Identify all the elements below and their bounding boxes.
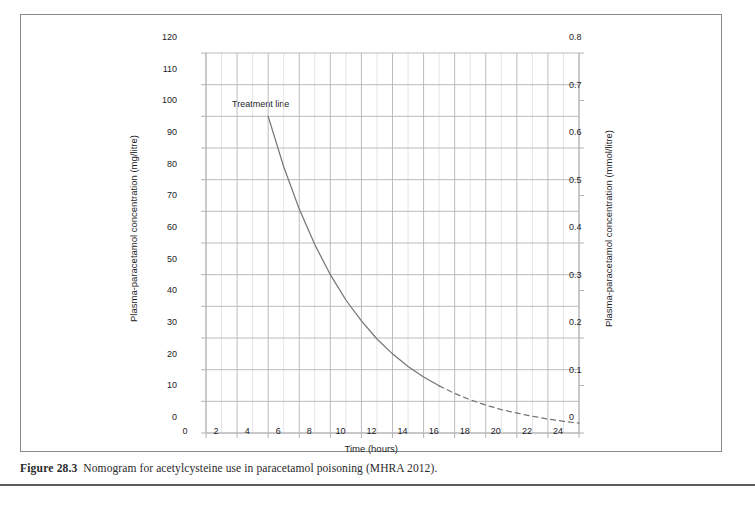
y-tick-label-left: 50: [143, 255, 177, 264]
y-axis-title-right: Plasma-paracetamol concentration (mmol/l…: [604, 130, 614, 327]
y-tick-label-right: 0.2: [569, 318, 582, 327]
y-tick-label-left: 30: [143, 318, 177, 327]
caption-number: Figure 28.3: [20, 462, 78, 474]
y-tick-label-right: 0.7: [569, 81, 582, 90]
y-tick-label-right: 0.5: [569, 176, 582, 185]
y-tick-label-left: 0: [143, 413, 177, 422]
figure-frame: Plasma-paracetamol concentration (mg/lit…: [20, 14, 722, 452]
x-tick-label: 6: [263, 427, 293, 436]
y-tick-label-right: 0.1: [569, 366, 582, 375]
plot-area: [206, 53, 579, 433]
y-tick-label-left: 90: [143, 128, 177, 137]
series-treatment-line: [268, 116, 439, 385]
caption-divider: [0, 484, 755, 486]
caption-text: Nomogram for acetylcysteine use in parac…: [83, 462, 437, 474]
x-tick-label: 2: [201, 427, 231, 436]
page-background: Plasma-paracetamol concentration (mg/lit…: [0, 0, 755, 511]
x-tick-label: 4: [232, 427, 262, 436]
nomogram-chart: [206, 53, 579, 433]
y-tick-label-right: 0.6: [569, 128, 582, 137]
y-tick-label-left: 120: [143, 33, 177, 42]
y-tick-label-left: 80: [143, 160, 177, 169]
x-tick-label: 18: [450, 427, 480, 436]
x-tick-label: 10: [325, 427, 355, 436]
x-tick-label: 22: [512, 427, 542, 436]
y-tick-label-left: 110: [143, 65, 177, 74]
y-tick-label-right: 0.4: [569, 223, 582, 232]
y-tick-label-right: 0.8: [569, 33, 582, 42]
y-tick-label-left: 10: [143, 381, 177, 390]
x-tick-label: 0: [170, 427, 200, 436]
x-tick-label: 20: [481, 427, 511, 436]
series-treatment-line-extrapolated: [439, 386, 579, 423]
y-tick-label-left: 70: [143, 191, 177, 200]
x-axis-title: Time (hours): [345, 444, 399, 454]
y-tick-label-left: 100: [143, 96, 177, 105]
x-tick-label: 16: [419, 427, 449, 436]
y-axis-title-left: Plasma-paracetamol concentration (mg/lit…: [129, 135, 139, 322]
x-tick-label: 8: [294, 427, 324, 436]
y-tick-label-right: 0: [569, 413, 574, 422]
y-tick-label-left: 40: [143, 286, 177, 295]
x-tick-label: 12: [357, 427, 387, 436]
x-tick-label: 14: [388, 427, 418, 436]
y-tick-label-left: 60: [143, 223, 177, 232]
x-tick-label: 24: [543, 427, 573, 436]
y-tick-label-right: 0.3: [569, 271, 582, 280]
y-tick-label-left: 20: [143, 350, 177, 359]
figure-caption: Figure 28.3 Nomogram for acetylcysteine …: [20, 462, 730, 474]
